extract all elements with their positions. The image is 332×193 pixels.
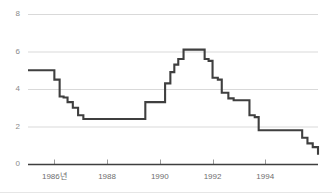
x-axis-ticks bbox=[55, 160, 266, 165]
chart-svg bbox=[0, 0, 332, 193]
data-series-line bbox=[28, 50, 318, 155]
y-tick-label: 8 bbox=[4, 9, 20, 18]
x-tick-label: 1986년 bbox=[24, 172, 84, 181]
y-tick-label: 2 bbox=[4, 122, 20, 131]
chart-container: 02468 1986년1988199019921994 bbox=[0, 0, 332, 193]
y-tick-label: 6 bbox=[4, 47, 20, 56]
x-tick-label: 1994 bbox=[235, 172, 295, 181]
gridlines bbox=[28, 15, 318, 128]
x-tick-label: 1988 bbox=[77, 172, 137, 181]
x-tick-label: 1990 bbox=[130, 172, 190, 181]
x-tick-label: 1992 bbox=[183, 172, 243, 181]
y-tick-label: 4 bbox=[4, 84, 20, 93]
y-tick-label: 0 bbox=[4, 159, 20, 168]
plot-area bbox=[0, 0, 332, 193]
